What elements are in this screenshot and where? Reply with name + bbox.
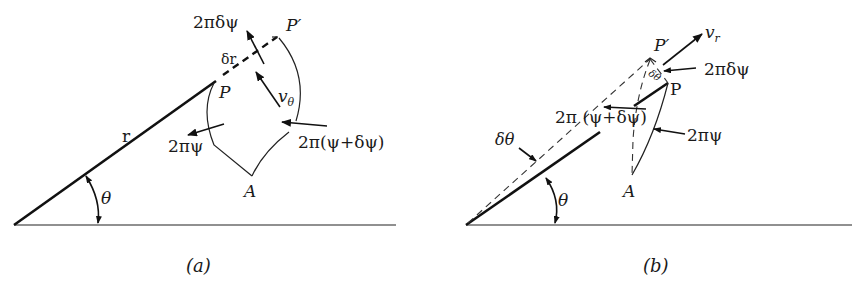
theta-label: θ [101, 188, 111, 208]
theta-label: θ [558, 190, 568, 210]
panel-a: θ r 2πδψ P′ δr P vθ 2πψ 2π(ψ+δψ) A (a) [14, 12, 396, 276]
radius-line-r [466, 132, 600, 225]
delta-r-label: δr [221, 51, 236, 67]
a-point-label: A [621, 181, 635, 201]
a-point-label: A [242, 181, 256, 201]
flux-psi-plus-label: 2π(ψ+δψ) [298, 132, 384, 152]
flux-delta-arrow-icon [247, 31, 264, 64]
p-prime-label: P′ [285, 15, 301, 35]
p-label: P [218, 82, 231, 102]
flux-psi-plus-arrow-icon [282, 122, 327, 126]
flux-psi-label: 2πψ [168, 136, 203, 156]
v-theta-arrow-icon [256, 72, 280, 107]
theta-arc-icon [546, 178, 557, 223]
panel-b-caption: (b) [643, 255, 669, 276]
delta-theta-label: δθ [495, 130, 515, 149]
p-prime-label: P′ [653, 35, 669, 55]
r-label: r [122, 126, 131, 146]
v-r-label: vr [705, 22, 721, 45]
theta-arc-icon [86, 176, 99, 223]
flux-psi-plus-label: 2π (ψ+δψ) [555, 107, 647, 127]
flux-psi-arrow-icon [188, 124, 224, 135]
stream-function-diagram: θ r 2πδψ P′ δr P vθ 2πψ 2π(ψ+δψ) A (a) [0, 0, 865, 296]
delta-theta-small-label: δθ [647, 67, 663, 83]
flux-delta-arrow-icon [664, 68, 696, 71]
flux-delta-label: 2πδψ [704, 59, 750, 79]
streamline-psi [632, 83, 668, 175]
delta-theta-pointer-icon [519, 148, 536, 161]
panel-a-caption: (a) [186, 255, 211, 276]
panel-b: θ δθ vr 2πδψ δθ P′ P 2π (ψ+δψ) 2πψ A (b) [466, 22, 852, 276]
flux-delta-label: 2πδψ [193, 12, 239, 32]
p-label: P [670, 79, 681, 99]
flux-psi-label: 2πψ [687, 125, 722, 145]
v-theta-label: vθ [278, 86, 295, 109]
flux-psi-arrow-icon [654, 129, 685, 134]
